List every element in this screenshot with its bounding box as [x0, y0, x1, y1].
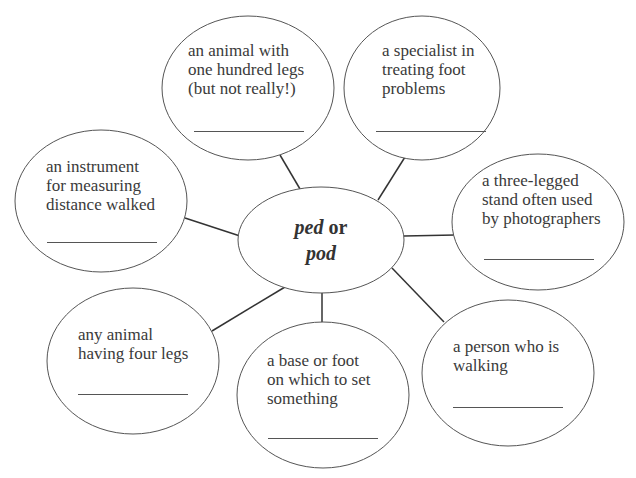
clue-tripod: a three-legged stand often used by photo…	[482, 171, 601, 228]
clue-pedestal: a base or foot on which to set something	[267, 351, 370, 408]
clue-line: a base or foot	[267, 351, 370, 370]
clue-line: on which to set	[267, 370, 370, 389]
answer-blank-pedestrian[interactable]	[453, 407, 563, 408]
root-pod: pod	[306, 242, 336, 264]
connector-word: or	[329, 216, 348, 238]
root-ped: ped	[295, 216, 324, 238]
clue-line: an instrument	[46, 157, 155, 176]
answer-blank-centipede[interactable]	[194, 131, 304, 132]
clue-line: something	[267, 389, 370, 408]
clue-line: treating foot	[382, 60, 475, 79]
clue-line: (but not really!)	[188, 79, 304, 98]
clue-line: walking	[453, 356, 559, 375]
clue-line: a specialist in	[382, 41, 475, 60]
connector-line-pedestrian	[392, 268, 444, 322]
clue-centipede: an animal with one hundred legs (but not…	[188, 41, 304, 98]
clue-line: having four legs	[78, 344, 188, 363]
clue-line: by photographers	[482, 209, 601, 228]
clue-line: any animal	[78, 325, 188, 344]
clue-line: stand often used	[482, 190, 601, 209]
connector-line-quadruped	[212, 287, 285, 331]
clue-line: for measuring	[46, 176, 155, 195]
connector-line-tripod	[404, 235, 455, 236]
clue-line: a person who is	[453, 337, 559, 356]
clue-podiatrist: a specialist in treating foot problems	[382, 41, 475, 98]
clue-pedometer: an instrument for measuring distance wal…	[46, 157, 155, 214]
clue-line: an animal with	[188, 41, 304, 60]
center-label: ped or pod	[261, 214, 381, 266]
connector-line-centipede	[280, 155, 300, 189]
clue-line: one hundred legs	[188, 60, 304, 79]
answer-blank-pedestal[interactable]	[268, 438, 378, 439]
clue-line: distance walked	[46, 195, 155, 214]
clue-pedestrian: a person who is walking	[453, 337, 559, 375]
clue-line: problems	[382, 79, 475, 98]
answer-blank-podiatrist[interactable]	[376, 131, 486, 132]
connector-line-pedometer	[185, 218, 240, 236]
clue-line: a three-legged	[482, 171, 601, 190]
answer-blank-pedometer[interactable]	[47, 242, 157, 243]
connector-line-podiatrist	[378, 157, 405, 200]
answer-blank-tripod[interactable]	[484, 259, 594, 260]
clue-quadruped: any animal having four legs	[78, 325, 188, 363]
answer-blank-quadruped[interactable]	[78, 394, 188, 395]
